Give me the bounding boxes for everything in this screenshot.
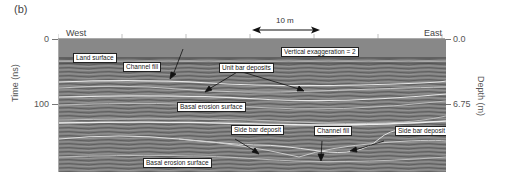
time-tick-0: 0	[44, 34, 49, 44]
callout-basal-erosion-upper: Basal erosion surface	[177, 102, 246, 112]
depth-axis-title: Depth (m)	[476, 76, 486, 116]
scale-bar-label: 10 m	[276, 16, 294, 25]
callout-channel-fill-lower: Channel fill	[314, 126, 352, 136]
time-tick-100: 100	[34, 99, 49, 109]
callout-side-bar-right: Side bar deposit	[395, 126, 446, 136]
callout-side-bar-left: Side bar deposit	[231, 125, 284, 135]
time-axis-title: Time (ns)	[10, 64, 20, 102]
panel-label: (b)	[14, 3, 27, 15]
vertical-exaggeration-note: Vertical exaggeration = 2	[281, 47, 359, 57]
callout-land-surface: Land surface	[73, 53, 117, 63]
depth-tick-0: 0.0	[453, 34, 466, 44]
callout-channel-fill-upper: Channel fill	[123, 62, 161, 72]
gpr-radargram: Land surface Channel fill Unit bar depos…	[58, 39, 446, 172]
depth-tick-675: 6.75	[453, 99, 471, 109]
callout-unit-bar-deposits: Unit bar deposits	[219, 63, 274, 73]
callout-basal-erosion-lower: Basal erosion surface	[143, 158, 212, 168]
scale-bar-arrow-icon	[252, 26, 320, 34]
